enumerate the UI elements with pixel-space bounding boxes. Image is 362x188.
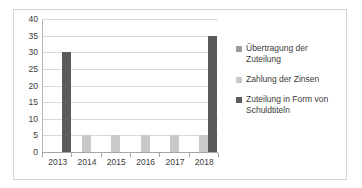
x-axis-tick-label: 2015 — [102, 158, 131, 167]
bar[interactable] — [199, 135, 208, 152]
x-axis-tick-label: 2018 — [190, 158, 219, 167]
legend-item-label: Zuteilung in Form von Schuldtiteln — [246, 94, 344, 116]
x-axis-tick-mark — [218, 153, 219, 157]
x-axis-tick-mark — [130, 153, 131, 157]
bar-group — [189, 20, 218, 152]
y-axis-tick-label: 5 — [33, 131, 38, 140]
bars-layer — [43, 20, 218, 152]
chart-figure: 0510152025303540 20132014201520162017201… — [13, 9, 347, 180]
bar[interactable] — [111, 135, 120, 152]
x-axis-tick-mark — [159, 153, 160, 157]
legend-item-label: Zahlung der Zinsen — [246, 74, 319, 85]
legend-swatch-icon — [236, 46, 242, 52]
y-axis-tick-label: 20 — [29, 81, 38, 90]
x-axis-tick-label: 2013 — [43, 158, 72, 167]
y-axis-tick-label: 0 — [33, 148, 38, 157]
x-axis-tick-label: 2016 — [131, 158, 160, 167]
bar-group — [72, 20, 101, 152]
y-axis-tick-label: 40 — [29, 15, 38, 24]
bar[interactable] — [82, 135, 91, 152]
y-axis-tick-label: 15 — [29, 98, 38, 107]
y-axis-tick-label: 35 — [29, 31, 38, 40]
legend-item[interactable]: Zuteilung in Form von Schuldtiteln — [236, 94, 344, 116]
bar[interactable] — [62, 52, 71, 152]
x-axis-tick-mark — [42, 153, 43, 157]
plot-area: 0510152025303540 — [42, 20, 218, 153]
bar-group — [131, 20, 160, 152]
x-axis-tick-labels: 201320142015201620172018 — [43, 158, 219, 167]
legend-item[interactable]: Übertragung der Zuteilung — [236, 43, 344, 65]
bar-group — [160, 20, 189, 152]
bar[interactable] — [141, 135, 150, 152]
chart-legend: Übertragung der ZuteilungZahlung der Zin… — [236, 43, 344, 125]
legend-swatch-icon — [236, 77, 242, 83]
y-axis-tick-label: 10 — [29, 115, 38, 124]
legend-item-label: Übertragung der Zuteilung — [246, 43, 344, 65]
y-axis-tick-label: 30 — [29, 48, 38, 57]
x-axis-tick-mark — [189, 153, 190, 157]
bar-group — [43, 20, 72, 152]
x-axis-tick-label: 2017 — [160, 158, 189, 167]
bar-group — [101, 20, 130, 152]
x-axis-tick-mark — [71, 153, 72, 157]
x-axis-tick-mark — [101, 153, 102, 157]
x-axis-tick-label: 2014 — [72, 158, 101, 167]
bar[interactable] — [208, 36, 217, 152]
y-axis-tick-label: 25 — [29, 65, 38, 74]
legend-swatch-icon — [236, 97, 242, 103]
legend-item[interactable]: Zahlung der Zinsen — [236, 74, 344, 85]
bar[interactable] — [170, 135, 179, 152]
